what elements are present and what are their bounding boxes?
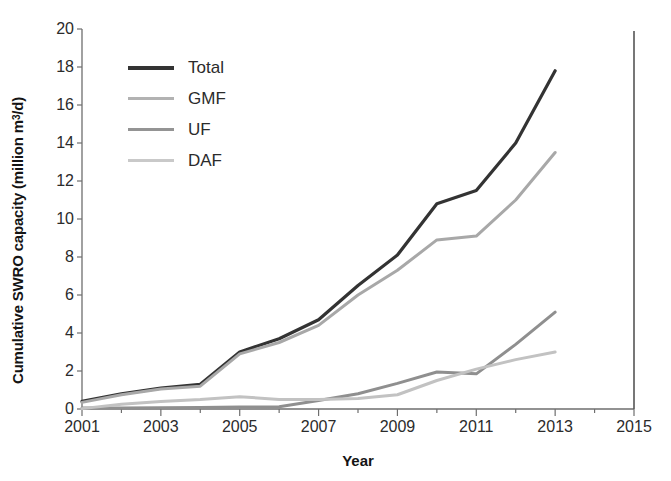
legend-swatch-icon [128, 159, 174, 162]
chart-figure: Cumulative SWRO capacity (million m3/d) … [0, 0, 671, 481]
x-tick-label: 2011 [459, 418, 493, 436]
x-tick-label: 2007 [301, 418, 337, 436]
x-tick-label: 2005 [222, 418, 258, 436]
chart-legend: TotalGMFUFDAF [128, 52, 298, 176]
legend-item-total[interactable]: Total [128, 52, 298, 83]
x-axis-title: Year [82, 452, 634, 469]
legend-label: UF [188, 121, 211, 138]
legend-label: DAF [188, 152, 222, 169]
legend-item-uf[interactable]: UF [128, 114, 298, 145]
legend-label: Total [188, 59, 224, 76]
legend-item-gmf[interactable]: GMF [128, 83, 298, 114]
legend-item-daf[interactable]: DAF [128, 145, 298, 176]
legend-swatch-icon [128, 66, 174, 70]
x-tick-label: 2015 [616, 418, 652, 436]
legend-label: GMF [188, 90, 226, 107]
x-tick-label: 2013 [537, 418, 573, 436]
x-tick-label: 2001 [64, 418, 100, 436]
x-tick-label: 2009 [380, 418, 416, 436]
x-tick-label: 2003 [143, 418, 179, 436]
legend-swatch-icon [128, 97, 174, 100]
x-axis-tick-labels: 20012003200520072009201120132015 [0, 0, 671, 481]
legend-swatch-icon [128, 128, 174, 131]
